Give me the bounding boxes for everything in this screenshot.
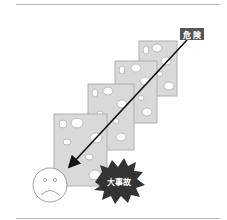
sad-face-icon — [33, 168, 67, 202]
hazard-label-text: 危 険 — [182, 30, 203, 40]
swiss-cheese-diagram: 危 険 大事故 — [0, 0, 227, 220]
accident-label-text: 大事故 — [107, 177, 132, 187]
hazard-label: 危 険 — [180, 28, 204, 40]
